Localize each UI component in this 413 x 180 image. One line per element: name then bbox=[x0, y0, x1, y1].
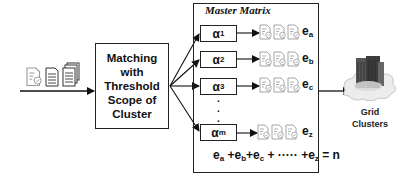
grid-label-line-2: Clusters bbox=[347, 118, 393, 130]
matching-line-4: Scope of bbox=[104, 93, 160, 107]
ellipsis-dot-3: · bbox=[217, 117, 220, 127]
master-matrix-title: Master Matrix bbox=[205, 4, 271, 16]
e-symbol: e bbox=[302, 51, 309, 65]
eq-part: +e bbox=[246, 148, 260, 162]
grid-label-line-1: Grid bbox=[347, 106, 393, 118]
alpha-subscript: m bbox=[219, 128, 226, 137]
alpha-symbol: α bbox=[213, 53, 220, 67]
eq-part: +e bbox=[224, 148, 241, 162]
document-with-badge-icon bbox=[27, 68, 41, 86]
alpha-subscript: 1 bbox=[220, 29, 224, 38]
e-subscript: z bbox=[309, 130, 313, 139]
alpha-1-box: α1 bbox=[200, 25, 237, 42]
e-subscript: a bbox=[309, 30, 313, 39]
document-lines-icon bbox=[46, 68, 58, 86]
alpha-2-box: α2 bbox=[200, 51, 237, 68]
matching-threshold-box: Matching with Threshold Scope of Cluster bbox=[95, 43, 169, 129]
alpha-symbol: α bbox=[213, 80, 220, 94]
e-symbol: e bbox=[302, 77, 309, 91]
document-stack-icon bbox=[63, 63, 79, 86]
eq-part: = n bbox=[319, 148, 340, 162]
matching-line-5: Cluster bbox=[104, 107, 160, 121]
alpha-symbol: α bbox=[213, 27, 220, 41]
eq-part: + ····· +e bbox=[264, 148, 315, 162]
alpha-subscript: 2 bbox=[220, 55, 224, 64]
matching-line-3: Threshold bbox=[104, 79, 160, 93]
alpha-symbol: α bbox=[211, 126, 218, 140]
e-label-z: ez bbox=[302, 124, 313, 139]
e-label-b: eb bbox=[302, 51, 314, 66]
diagram-canvas: Matching with Threshold Scope of Cluster… bbox=[0, 0, 413, 180]
eq-part: e bbox=[213, 148, 220, 162]
grid-clusters-label: Grid Clusters bbox=[347, 106, 393, 130]
e-symbol: e bbox=[302, 124, 309, 138]
e-label-c: ec bbox=[302, 77, 313, 92]
input-documents bbox=[27, 63, 79, 86]
server-cloud-icon bbox=[344, 56, 396, 101]
alpha-subscript: 3 bbox=[220, 82, 224, 91]
e-subscript: c bbox=[309, 83, 313, 92]
e-label-a: ea bbox=[302, 24, 313, 39]
alpha-3-box: α3 bbox=[200, 78, 237, 95]
matching-line-1: Matching bbox=[104, 51, 160, 65]
sum-equation: ea +eb+ec + ····· +ez = n bbox=[213, 148, 340, 163]
matching-line-2: with bbox=[104, 65, 160, 79]
e-subscript: b bbox=[309, 57, 314, 66]
e-symbol: e bbox=[302, 24, 309, 38]
